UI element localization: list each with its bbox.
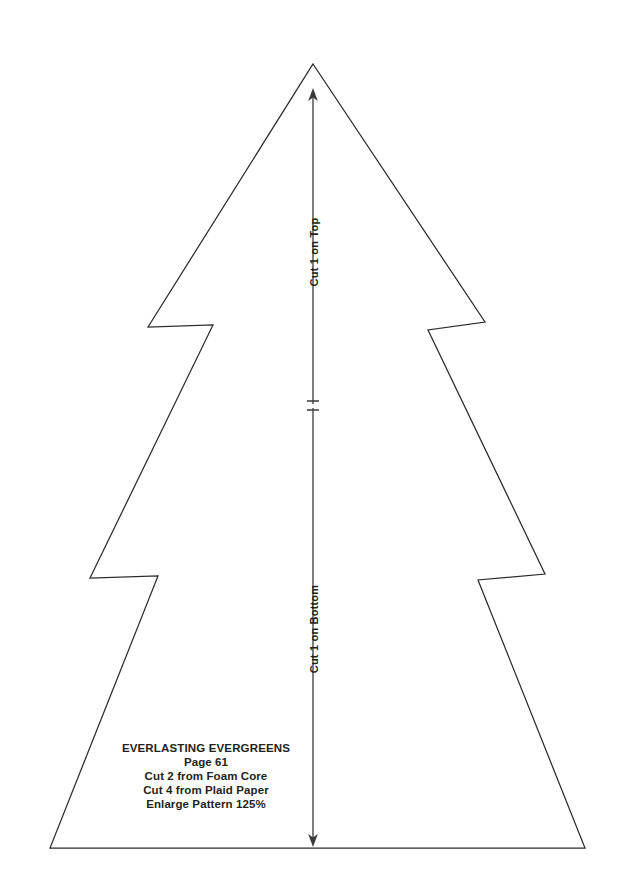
label-cut-1-on-top: Cut 1 on Top (308, 218, 320, 287)
label-cut-1-on-bottom: Cut 1 on Bottom (308, 585, 320, 674)
caption-foam-core-instruction: Cut 2 from Foam Core (96, 769, 316, 783)
caption-page-number: Page 61 (96, 755, 316, 769)
cut-guide-arrow (307, 88, 319, 847)
pattern-sheet: Cut 1 on Top Cut 1 on Bottom EVERLASTING… (0, 0, 626, 891)
caption-title: EVERLASTING EVERGREENS (96, 741, 316, 755)
caption-enlarge-instruction: Enlarge Pattern 125% (96, 797, 316, 811)
christmas-tree-outline (50, 64, 585, 848)
pattern-caption-block: EVERLASTING EVERGREENS Page 61 Cut 2 fro… (96, 741, 316, 811)
caption-plaid-paper-instruction: Cut 4 from Plaid Paper (96, 783, 316, 797)
